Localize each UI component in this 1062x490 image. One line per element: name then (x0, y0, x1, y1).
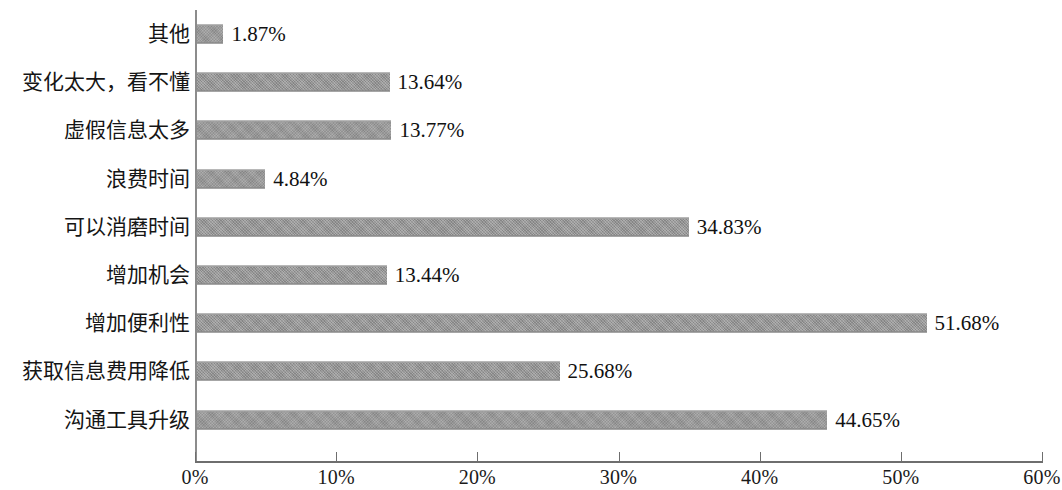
bar-row: 增加机会13.44% (0, 251, 1062, 299)
value-axis-tick-label: 30% (600, 466, 637, 488)
value-axis-tick-label: 40% (741, 466, 778, 488)
value-axis-tick-mark (760, 452, 761, 462)
category-label: 可以消磨时间 (64, 215, 190, 239)
bar-track (197, 169, 265, 188)
bar-track (197, 25, 223, 44)
value-axis-tick-label: 20% (459, 466, 496, 488)
bar-track (197, 362, 560, 381)
category-label: 获取信息费用降低 (22, 359, 190, 383)
bar-value-label: 51.68% (935, 312, 1000, 335)
bar-row: 获取信息费用降低25.68% (0, 347, 1062, 395)
bar-row: 浪费时间4.84% (0, 155, 1062, 203)
category-label: 增加机会 (106, 263, 190, 287)
value-axis-tick-mark (901, 452, 902, 462)
bar-row: 沟通工具升级44.65% (0, 396, 1062, 444)
bar-row: 可以消磨时间34.83% (0, 203, 1062, 251)
bar (197, 121, 391, 140)
bar (197, 410, 827, 429)
category-label: 变化太大，看不懂 (22, 70, 190, 94)
bar (197, 266, 387, 285)
value-axis-tick-label: 10% (318, 466, 355, 488)
value-axis-tick-mark (195, 452, 196, 462)
bar-row: 变化太大，看不懂13.64% (0, 58, 1062, 106)
category-label: 沟通工具升级 (64, 408, 190, 432)
bar-value-label: 13.44% (395, 264, 460, 287)
bar (197, 362, 560, 381)
bar-chart: 0%10%20%30%40%50%60% 其他1.87%变化太大，看不懂13.6… (0, 0, 1062, 490)
value-axis-tick-mark (336, 452, 337, 462)
bar (197, 217, 689, 236)
category-label: 增加便利性 (85, 311, 190, 335)
plot-area: 0%10%20%30%40%50%60% 其他1.87%变化太大，看不懂13.6… (0, 0, 1062, 490)
bar-track (197, 217, 689, 236)
bar-value-label: 25.68% (568, 360, 633, 383)
bar-track (197, 121, 391, 140)
value-axis-tick-mark (477, 452, 478, 462)
bar-track (197, 314, 927, 333)
bar-value-label: 4.84% (273, 167, 327, 190)
bar-row: 增加便利性51.68% (0, 299, 1062, 347)
value-axis-tick-label: 60% (1023, 466, 1060, 488)
bar (197, 314, 927, 333)
bar-track (197, 266, 387, 285)
category-label: 虚假信息太多 (64, 118, 190, 142)
value-axis-tick-mark (619, 452, 620, 462)
bar (197, 169, 265, 188)
bar-row: 虚假信息太多13.77% (0, 106, 1062, 154)
bar-track (197, 73, 390, 92)
bar-value-label: 13.64% (398, 71, 463, 94)
bar-value-label: 44.65% (835, 408, 900, 431)
value-axis-tick-label: 0% (181, 466, 208, 488)
bar (197, 25, 223, 44)
value-axis-tick-label: 50% (882, 466, 919, 488)
bar-value-label: 1.87% (231, 23, 285, 46)
bar-row: 其他1.87% (0, 10, 1062, 58)
bar-value-label: 13.77% (399, 119, 464, 142)
bar (197, 73, 390, 92)
bar-value-label: 34.83% (697, 215, 762, 238)
category-label: 其他 (148, 22, 190, 46)
bar-track (197, 410, 827, 429)
value-axis-tick-mark (1042, 452, 1043, 462)
category-label: 浪费时间 (106, 167, 190, 191)
